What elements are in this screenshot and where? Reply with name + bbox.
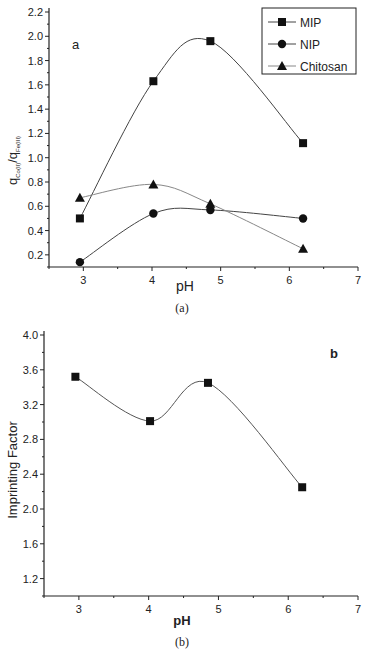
y-tick-label: 2.0 bbox=[23, 503, 38, 515]
x-tick-label: 7 bbox=[355, 603, 361, 615]
y-tick-label: 1.4 bbox=[28, 103, 43, 115]
x-tick-label: 7 bbox=[355, 274, 361, 286]
y-tick-label: 0.4 bbox=[28, 225, 43, 237]
square-marker bbox=[206, 37, 214, 45]
x-tick-label: 3 bbox=[76, 603, 82, 615]
y-tick-label: 1.8 bbox=[28, 55, 43, 67]
y-tick-label: 3.6 bbox=[23, 364, 38, 376]
y-tick-label: 2.0 bbox=[28, 30, 43, 42]
y-tick-label: 1.2 bbox=[28, 127, 43, 139]
series-chitosan bbox=[75, 179, 308, 252]
triangle-marker bbox=[298, 244, 308, 253]
y-axis-label: qCo(II)/qFe(III) bbox=[5, 136, 21, 185]
square-marker bbox=[149, 77, 157, 85]
y-tick-label: 1.2 bbox=[23, 573, 38, 585]
y-tick-label: 3.2 bbox=[23, 399, 38, 411]
y-tick-label: 1.6 bbox=[28, 79, 43, 91]
x-tick-label: 4 bbox=[146, 603, 152, 615]
y-tick-label: 1.6 bbox=[23, 538, 38, 550]
x-tick-label: 5 bbox=[218, 274, 224, 286]
y-tick-label: 4.0 bbox=[23, 329, 38, 341]
y-axis-label: Imprinting Factor bbox=[5, 421, 20, 519]
y-tick-label: 2.4 bbox=[23, 468, 38, 480]
triangle-marker bbox=[205, 199, 215, 208]
chart-b: 1.21.62.02.42.83.23.64.034567pHb(b)Impri… bbox=[0, 320, 369, 657]
x-tick-label: 6 bbox=[285, 603, 291, 615]
x-axis-label: pH bbox=[176, 278, 194, 294]
circle-marker bbox=[149, 209, 157, 217]
legend-entry: NIP bbox=[300, 38, 320, 52]
series-nip bbox=[76, 206, 308, 267]
figure-caption: (b) bbox=[175, 635, 189, 649]
square-marker bbox=[204, 379, 212, 387]
circle-marker bbox=[299, 214, 307, 222]
legend: MIPNIPChitosan bbox=[262, 8, 356, 74]
circle-marker bbox=[76, 258, 84, 266]
y-tick-label: 1.0 bbox=[28, 152, 43, 164]
x-tick-label: 6 bbox=[286, 274, 292, 286]
square-marker bbox=[299, 139, 307, 147]
x-tick-label: 5 bbox=[215, 603, 221, 615]
circle-marker bbox=[278, 40, 286, 48]
figure-caption: (a) bbox=[175, 301, 188, 315]
y-tick-label: 0.2 bbox=[28, 249, 43, 261]
square-marker bbox=[298, 483, 306, 491]
square-marker bbox=[71, 373, 79, 381]
y-tick-label: 2.2 bbox=[28, 6, 43, 18]
x-tick-label: 4 bbox=[149, 274, 155, 286]
square-marker bbox=[146, 417, 154, 425]
panel-label: b bbox=[330, 346, 338, 361]
y-tick-label: 0.8 bbox=[28, 176, 43, 188]
legend-entry: Chitosan bbox=[300, 60, 347, 74]
panel-label: a bbox=[72, 37, 80, 52]
chart-a: 0.20.40.60.81.01.21.41.61.82.02.234567pH… bbox=[0, 0, 369, 320]
x-tick-label: 3 bbox=[80, 274, 86, 286]
legend-entry: MIP bbox=[300, 16, 321, 30]
square-marker bbox=[278, 18, 286, 26]
y-tick-label: 2.8 bbox=[23, 433, 38, 445]
square-marker bbox=[76, 214, 84, 222]
y-tick-label: 0.6 bbox=[28, 200, 43, 212]
series-imprinting-factor bbox=[71, 373, 306, 491]
x-axis-label: pH bbox=[173, 613, 190, 628]
